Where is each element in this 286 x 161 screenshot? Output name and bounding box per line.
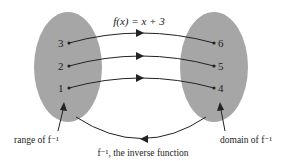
left-value-1: 1 (58, 82, 64, 94)
function-label: f(x) = x + 3 (113, 15, 165, 28)
function-diagram: 3 2 1 6 5 4 f(x) = x + 3 f⁻¹, the invers… (0, 0, 286, 161)
point-right-5 (212, 64, 215, 67)
left-value-2: 2 (58, 60, 64, 72)
arrowhead-icon (136, 74, 144, 82)
arrowhead-icon (136, 29, 144, 37)
inverse-arrow (76, 117, 206, 139)
range-label: range of f⁻¹ (14, 135, 59, 145)
point-left-1 (67, 86, 70, 89)
right-value-5: 5 (218, 60, 224, 72)
inverse-label: f⁻¹, the inverse function (97, 148, 188, 158)
point-right-6 (212, 41, 215, 44)
point-left-3 (67, 41, 70, 44)
domain-label: domain of f⁻¹ (220, 135, 272, 145)
right-value-6: 6 (218, 37, 224, 49)
left-value-3: 3 (58, 37, 64, 49)
point-right-4 (212, 86, 215, 89)
arrowhead-icon (136, 52, 144, 60)
right-value-4: 4 (218, 82, 224, 94)
point-left-2 (67, 64, 70, 67)
arrowhead-icon (140, 135, 148, 143)
